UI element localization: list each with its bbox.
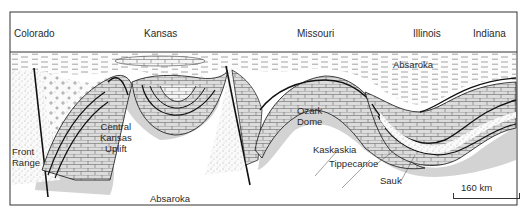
cku-line-3: Uplift bbox=[100, 143, 132, 154]
label-absaroka-bottom: Absaroka bbox=[150, 193, 190, 204]
label-absaroka-top: Absaroka bbox=[393, 59, 433, 70]
label-kaskaskia: Kaskaskia bbox=[313, 144, 356, 155]
label-ozark-dome: Ozark Dome bbox=[297, 105, 322, 127]
label-tippecanoe: Tippecanoe bbox=[329, 158, 378, 169]
label-colorado: Colorado bbox=[14, 28, 55, 39]
label-indiana: Indiana bbox=[473, 28, 506, 39]
front-range-line-1: Front Range bbox=[12, 146, 40, 168]
scale-label: 160 km bbox=[461, 182, 492, 193]
cross-section-diagram bbox=[0, 0, 527, 214]
label-kansas: Kansas bbox=[144, 28, 177, 39]
label-central-kansas-uplift: Central Kansas Uplift bbox=[100, 121, 132, 154]
label-illinois: Illinois bbox=[413, 28, 441, 39]
label-sauk: Sauk bbox=[380, 175, 402, 186]
cku-line-2: Kansas bbox=[100, 132, 132, 143]
cku-line-1: Central bbox=[100, 121, 132, 132]
ozark-line-2: Dome bbox=[297, 116, 322, 127]
label-front-range: Front Range bbox=[12, 146, 40, 168]
label-missouri: Missouri bbox=[297, 28, 334, 39]
scale-bar bbox=[453, 193, 520, 199]
ozark-line-1: Ozark bbox=[297, 105, 322, 116]
